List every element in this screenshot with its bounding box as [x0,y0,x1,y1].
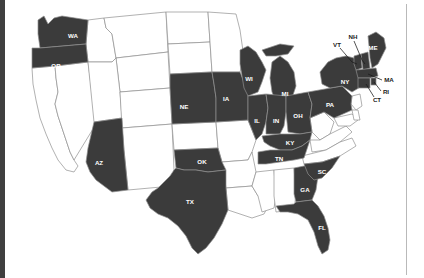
label-NH: NH [349,33,358,40]
state-MN[interactable] [208,12,244,72]
state-CO[interactable] [120,88,172,128]
label-OK: OK [197,158,207,165]
state-WA[interactable] [38,16,88,48]
state-ND[interactable] [166,12,210,44]
label-FL: FL [318,224,326,231]
leader-line-RI [374,82,381,91]
label-SC: SC [318,168,327,175]
state-AZ[interactable] [86,118,128,192]
label-TX: TX [186,198,195,205]
label-WA: WA [68,32,78,39]
label-IL: IL [254,117,260,124]
label-PA: PA [326,101,335,108]
state-UT[interactable] [88,58,122,122]
label-WI: WI [245,75,253,82]
label-IN: IN [273,117,280,124]
state-NJ[interactable] [351,94,362,110]
us-map-svg: WA OR AZ NE IA OK TX WI MI IL IN OH KY T… [0,0,406,278]
label-RI: RI [383,88,389,95]
label-IA: IA [223,95,230,102]
label-KY: KY [286,139,295,146]
state-WY[interactable] [116,52,170,92]
state-IN[interactable] [266,94,286,134]
label-ME: ME [368,44,377,51]
us-map-container: WA OR AZ NE IA OK TX WI MI IL IN OH KY T… [0,0,406,278]
label-TN: TN [275,155,284,162]
label-MI: MI [282,90,289,97]
label-NY: NY [341,78,350,85]
label-OR: OR [51,62,61,69]
state-KS[interactable] [172,122,218,150]
label-AZ: AZ [95,159,103,166]
right-divider-rule [406,4,407,275]
label-MA: MA [384,76,394,83]
map-figure: WA OR AZ NE IA OK TX WI MI IL IN OH KY T… [0,0,424,278]
state-NE[interactable] [170,72,216,124]
label-VT: VT [333,41,341,48]
label-GA: GA [300,186,310,193]
label-NE: NE [180,103,189,110]
label-OH: OH [293,112,303,119]
state-CT[interactable] [358,78,370,88]
label-CT: CT [373,96,381,103]
state-SD[interactable] [168,42,212,74]
state-WI[interactable] [240,46,266,96]
